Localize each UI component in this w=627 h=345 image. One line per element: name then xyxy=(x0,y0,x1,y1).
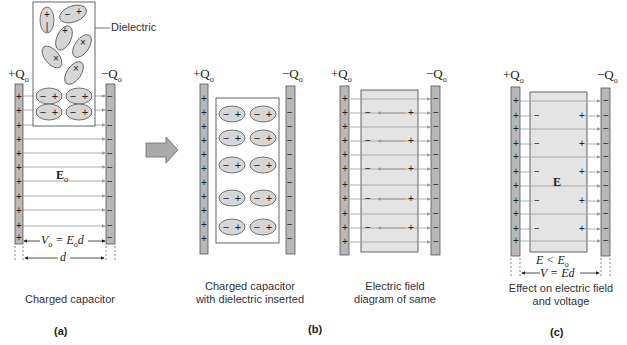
svg-text:×: × xyxy=(73,63,79,74)
svg-text:+: + xyxy=(579,195,585,206)
svg-text:−: − xyxy=(107,134,113,145)
svg-text:−: − xyxy=(365,107,371,118)
svg-text:−: − xyxy=(287,93,293,104)
svg-text:−: − xyxy=(287,107,293,118)
svg-text:−: − xyxy=(365,163,371,174)
svg-text:+: + xyxy=(513,138,519,149)
svg-text:+: + xyxy=(16,191,22,202)
plate-charge-positive-b1: +Qo xyxy=(193,66,214,84)
svg-text:+: + xyxy=(579,138,585,149)
svg-text:+: + xyxy=(76,6,82,17)
svg-text:+: + xyxy=(201,205,207,216)
svg-text:−: − xyxy=(365,222,371,233)
svg-text:−: − xyxy=(287,135,293,146)
svg-text:−: − xyxy=(365,193,371,204)
svg-text:+: + xyxy=(408,107,414,118)
svg-text:−: − xyxy=(287,233,293,244)
svg-text:+: + xyxy=(201,177,207,188)
svg-text:−: − xyxy=(287,219,293,230)
svg-text:−: − xyxy=(107,91,113,102)
svg-text:+: + xyxy=(16,205,22,216)
svg-text:−: − xyxy=(65,9,71,20)
svg-text:−: − xyxy=(287,205,293,216)
svg-text:+: + xyxy=(16,91,22,102)
svg-text:+: + xyxy=(342,179,348,190)
svg-text:−: − xyxy=(287,191,293,202)
svg-text:+: + xyxy=(16,162,22,173)
svg-text:+: + xyxy=(201,149,207,160)
svg-text:−: − xyxy=(107,105,113,116)
svg-text:+: + xyxy=(579,166,585,177)
svg-text:+: + xyxy=(408,222,414,233)
svg-text:−: − xyxy=(433,93,439,104)
svg-text:+: + xyxy=(579,223,585,234)
svg-text:+: + xyxy=(408,163,414,174)
svg-text:+: + xyxy=(579,110,585,121)
svg-text:−: − xyxy=(107,162,113,173)
svg-text:+: + xyxy=(201,191,207,202)
plate-charge-negative-b1: −Qo xyxy=(282,66,303,84)
svg-text:×: × xyxy=(80,37,86,48)
svg-text:−: − xyxy=(603,166,609,177)
svg-text:−: − xyxy=(603,123,609,134)
svg-text:−: − xyxy=(603,195,609,206)
svg-text:−: − xyxy=(433,121,439,132)
transition-arrow-icon xyxy=(146,137,178,163)
plate-charge-positive-c: +Qo xyxy=(503,67,524,85)
svg-text:+: + xyxy=(342,222,348,233)
svg-text:−: − xyxy=(433,107,439,118)
plate-charge-negative-b2: −Qo xyxy=(426,66,447,84)
svg-text:+: + xyxy=(342,121,348,132)
svg-text:−: − xyxy=(534,110,540,121)
panel-b1: +++++++++++ −−−−−−−−−−− xyxy=(200,84,295,254)
svg-text:+: + xyxy=(513,151,519,162)
svg-text:−: − xyxy=(287,163,293,174)
svg-text:+: + xyxy=(342,236,348,247)
svg-text:−: − xyxy=(107,120,113,131)
svg-text:+: + xyxy=(16,220,22,231)
svg-text:−: − xyxy=(287,149,293,160)
svg-text:+: + xyxy=(342,163,348,174)
voltage-label-a: Vo = Eod xyxy=(41,233,84,249)
svg-text:+: + xyxy=(62,25,68,36)
svg-text:+: + xyxy=(342,208,348,219)
svg-text:−: − xyxy=(287,177,293,188)
svg-text:−: − xyxy=(603,235,609,246)
svg-text:−: − xyxy=(287,121,293,132)
dielectric-label: Dielectric xyxy=(111,21,156,33)
svg-text:+: + xyxy=(513,223,519,234)
svg-text:+: + xyxy=(513,166,519,177)
svg-text:+: + xyxy=(513,110,519,121)
svg-text:−: − xyxy=(603,208,609,219)
svg-text:−: − xyxy=(603,138,609,149)
svg-text:+: + xyxy=(201,93,207,104)
panel-label-c: (c) xyxy=(550,326,563,338)
svg-text:+: + xyxy=(201,219,207,230)
svg-text:+: + xyxy=(44,9,50,20)
svg-text:−: − xyxy=(107,176,113,187)
svg-text:+: + xyxy=(16,176,22,187)
svg-text:−: − xyxy=(603,180,609,191)
svg-text:+: + xyxy=(201,163,207,174)
caption-b1: Charged capacitor with dielectric insert… xyxy=(180,280,320,306)
svg-text:+: + xyxy=(342,193,348,204)
distance-label-d: d xyxy=(60,250,66,265)
svg-text:−: − xyxy=(603,95,609,106)
plate-charge-negative-c: −Qo xyxy=(597,67,618,85)
plate-charge-positive-b2: +Qo xyxy=(331,66,352,84)
svg-text:−: − xyxy=(107,191,113,202)
voltage-label-c: V = Ed xyxy=(540,266,575,281)
svg-text:−: − xyxy=(433,236,439,247)
svg-text:−: − xyxy=(534,166,540,177)
svg-text:−: − xyxy=(433,149,439,160)
svg-text:+: + xyxy=(342,93,348,104)
svg-text:+: + xyxy=(201,121,207,132)
svg-text:+: + xyxy=(513,208,519,219)
svg-text:−: − xyxy=(107,220,113,231)
svg-text:−: − xyxy=(433,135,439,146)
svg-text:−: − xyxy=(534,138,540,149)
svg-text:−: − xyxy=(433,163,439,174)
svg-text:+: + xyxy=(408,193,414,204)
svg-text:+: + xyxy=(201,135,207,146)
svg-text:+: + xyxy=(201,233,207,244)
